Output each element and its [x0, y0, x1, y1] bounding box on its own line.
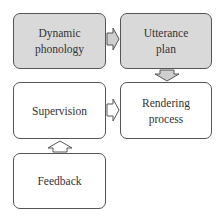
node-label-line: Supervision — [32, 105, 87, 117]
arrow-right-icon — [106, 98, 120, 122]
node-label-line: plan — [156, 43, 176, 55]
node-label-line: process — [149, 113, 184, 125]
node-rendering-process: Renderingprocess — [120, 82, 212, 139]
node-dynamic-phonology: Dynamicphonology — [13, 13, 106, 69]
arrow-down-icon — [154, 69, 180, 82]
node-label-line: Rendering — [142, 97, 190, 109]
node-label-line: Dynamic — [38, 27, 80, 39]
node-supervision: Supervision — [13, 82, 106, 139]
node-label-line: phonology — [35, 43, 84, 55]
node-label-line: Feedback — [37, 175, 81, 187]
arrow-right-icon — [106, 27, 120, 51]
node-feedback: Feedback — [13, 153, 106, 209]
node-label-line: Utterance — [144, 27, 189, 39]
node-utterance-plan: Utteranceplan — [120, 13, 212, 69]
arrow-up-icon — [47, 140, 73, 153]
